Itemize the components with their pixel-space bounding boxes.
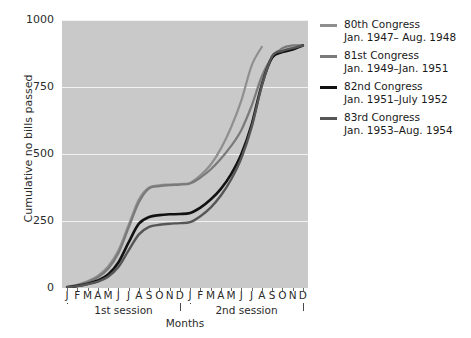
y-tick-label-1000: 1000 <box>14 13 54 26</box>
legend-swatch-icon-1 <box>320 55 337 58</box>
x-tick-mark-11 <box>180 288 181 291</box>
x-tick-mark-6 <box>129 288 130 291</box>
x-tick-mark-16 <box>231 288 232 291</box>
legend-item-2[interactable]: 82nd CongressJan. 1951–July 1952 <box>320 80 470 106</box>
legend-dates-2: Jan. 1951–July 1952 <box>344 93 470 106</box>
legend-dates-0: Jan. 1947– Aug. 1948 <box>344 31 470 44</box>
legend-item-1[interactable]: 81st CongressJan. 1949–Jan. 1951 <box>320 49 470 75</box>
legend-label-1: 81st Congress <box>344 49 470 62</box>
legend-dates-1: Jan. 1949–Jan. 1951 <box>344 62 470 75</box>
chart-figure: 02505007501000 Cumulative no bills passe… <box>0 0 471 338</box>
x-tick-mark-9 <box>159 288 160 291</box>
legend-item-3[interactable]: 83rd CongressJan. 1953–Aug. 1954 <box>320 111 470 137</box>
x-tick-mark-3 <box>98 288 99 291</box>
x-tick-mark-14 <box>211 288 212 291</box>
x-tick-mark-13 <box>200 288 201 291</box>
x-tick-mark-17 <box>241 288 242 291</box>
legend-swatch-icon-3 <box>320 117 337 120</box>
x-axis-title: Months <box>42 317 328 329</box>
x-tick-mark-22 <box>293 288 294 291</box>
session-1-bracket-end-1 <box>180 303 181 311</box>
y-tick-label-0: 0 <box>14 281 54 294</box>
legend-label-0: 80th Congress <box>344 18 470 31</box>
legend-swatch-icon-0 <box>320 24 337 27</box>
x-tick-mark-7 <box>139 288 140 291</box>
legend-label-3: 83rd Congress <box>344 111 470 124</box>
x-tick-mark-0 <box>67 288 68 291</box>
x-tick-mark-5 <box>118 288 119 291</box>
chart-legend: 80th CongressJan. 1947– Aug. 194881st Co… <box>320 18 470 142</box>
legend-swatch-icon-2 <box>320 86 337 89</box>
y-axis-title: Cumulative no bills passed <box>22 59 35 239</box>
session-2-label: 2nd session <box>190 304 303 316</box>
x-tick-mark-18 <box>252 288 253 291</box>
x-tick-mark-15 <box>221 288 222 291</box>
session-2-bracket-end-1 <box>303 303 304 311</box>
series-line-82nd-congress <box>67 45 303 287</box>
series-line-80th-congress <box>67 47 262 287</box>
x-tick-mark-12 <box>190 288 191 291</box>
series-line-83rd-congress <box>67 45 303 287</box>
x-tick-mark-21 <box>282 288 283 291</box>
x-tick-mark-23 <box>303 288 304 291</box>
legend-dates-3: Jan. 1953–Aug. 1954 <box>344 124 470 137</box>
series-line-81st-congress <box>67 45 303 287</box>
x-tick-mark-20 <box>272 288 273 291</box>
session-1-label: 1st session <box>67 304 180 316</box>
x-tick-mark-4 <box>108 288 109 291</box>
x-tick-mark-8 <box>149 288 150 291</box>
x-tick-mark-10 <box>170 288 171 291</box>
x-tick-mark-2 <box>88 288 89 291</box>
x-tick-mark-1 <box>77 288 78 291</box>
x-tick-mark-19 <box>262 288 263 291</box>
legend-item-0[interactable]: 80th CongressJan. 1947– Aug. 1948 <box>320 18 470 44</box>
legend-label-2: 82nd Congress <box>344 80 470 93</box>
